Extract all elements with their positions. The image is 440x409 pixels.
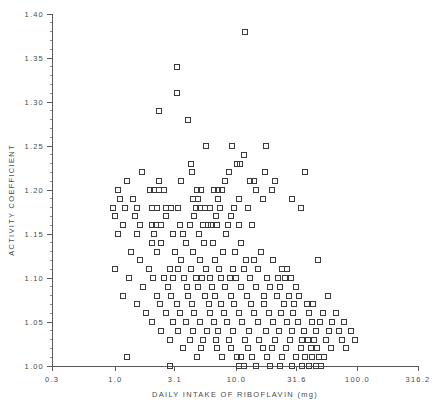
data-point <box>159 223 164 228</box>
data-point <box>176 267 181 272</box>
data-point <box>277 328 282 333</box>
data-point <box>161 276 166 281</box>
data-point <box>115 188 120 193</box>
data-point <box>274 293 279 298</box>
data-point <box>180 232 185 237</box>
plot-canvas: 1.001.051.101.151.201.251.301.351.40 0.3… <box>0 0 440 409</box>
data-point <box>326 328 331 333</box>
data-point <box>318 320 323 325</box>
data-point <box>165 284 170 289</box>
data-point <box>231 205 236 210</box>
data-point <box>152 232 157 237</box>
data-point <box>342 320 347 325</box>
data-point <box>279 311 284 316</box>
data-point <box>321 311 326 316</box>
data-point <box>113 214 118 219</box>
x-tick-label: 0.3 <box>45 375 59 384</box>
data-point <box>158 302 163 307</box>
data-point <box>239 240 244 245</box>
data-point <box>120 293 125 298</box>
data-point <box>194 355 199 360</box>
data-point <box>188 161 193 166</box>
data-point <box>324 337 329 342</box>
data-point <box>219 276 224 281</box>
data-point <box>202 240 207 245</box>
data-point <box>225 320 230 325</box>
data-point <box>190 170 195 175</box>
data-point <box>230 328 235 333</box>
data-point <box>242 152 247 157</box>
data-point <box>203 144 208 149</box>
data-point <box>215 196 220 201</box>
data-point <box>287 337 292 342</box>
data-point <box>125 355 130 360</box>
data-point <box>297 293 302 298</box>
data-point <box>131 196 136 201</box>
data-point <box>263 144 268 149</box>
data-point <box>195 284 200 289</box>
y-tick-label: 1.30 <box>25 98 44 107</box>
data-point <box>120 223 125 228</box>
data-point <box>243 337 248 342</box>
data-point <box>340 337 345 342</box>
data-point <box>206 302 211 307</box>
data-point <box>211 320 216 325</box>
data-point <box>325 293 330 298</box>
data-point <box>172 249 177 254</box>
data-point <box>210 284 215 289</box>
data-point <box>208 276 213 281</box>
y-tick-label: 1.20 <box>25 186 44 195</box>
data-point <box>144 311 149 316</box>
data-point <box>328 346 333 351</box>
data-point <box>259 249 264 254</box>
data-point <box>270 320 275 325</box>
data-point <box>159 328 164 333</box>
data-point <box>269 346 274 351</box>
data-point <box>217 205 222 210</box>
data-point <box>255 320 260 325</box>
data-point <box>330 320 335 325</box>
data-point <box>224 232 229 237</box>
data-point <box>171 232 176 237</box>
data-point <box>216 328 221 333</box>
data-point <box>169 205 174 210</box>
data-point <box>177 311 182 316</box>
data-point <box>252 258 257 263</box>
data-point <box>191 328 196 333</box>
data-point <box>200 276 205 281</box>
data-point <box>222 179 227 184</box>
data-point <box>289 328 294 333</box>
data-point <box>293 284 298 289</box>
data-point <box>163 311 168 316</box>
data-point <box>268 284 273 289</box>
data-point <box>184 284 189 289</box>
data-point <box>249 302 254 307</box>
data-point <box>154 205 159 210</box>
data-point <box>303 170 308 175</box>
data-point <box>281 302 286 307</box>
data-point <box>244 258 249 263</box>
data-point <box>203 293 208 298</box>
data-point <box>174 91 179 96</box>
data-point <box>253 284 258 289</box>
data-point <box>226 170 231 175</box>
data-point <box>183 320 188 325</box>
data-point <box>248 276 253 281</box>
data-point <box>186 117 191 122</box>
data-point <box>129 249 134 254</box>
data-point <box>210 240 215 245</box>
data-point <box>336 328 341 333</box>
data-point <box>257 337 262 342</box>
data-point <box>303 355 308 360</box>
data-point <box>270 258 275 263</box>
data-point <box>298 205 303 210</box>
x-tick-label: 100.0 <box>345 375 370 384</box>
data-point <box>147 267 152 272</box>
data-point <box>174 64 179 69</box>
y-tick-label: 1.10 <box>25 274 44 283</box>
data-point <box>309 320 314 325</box>
data-point <box>183 240 188 245</box>
data-point <box>157 108 162 113</box>
data-point <box>197 320 202 325</box>
data-point <box>113 267 118 272</box>
